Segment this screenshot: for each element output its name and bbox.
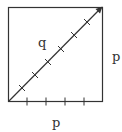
label-bottom-side: p — [52, 115, 60, 130]
label-diagonal: q — [38, 35, 46, 50]
label-right-side: p — [112, 49, 120, 64]
diagram-canvas: q p p — [0, 0, 122, 132]
